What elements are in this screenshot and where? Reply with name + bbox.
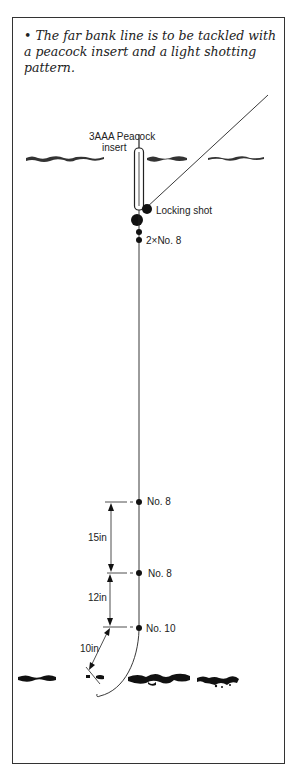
spacing-12in-label: 12in xyxy=(88,592,107,603)
hook-icon xyxy=(97,694,100,697)
dropper-shot-icon xyxy=(136,570,142,576)
locking-shot-icon xyxy=(131,214,143,226)
dimension-15in xyxy=(108,503,114,572)
tell-tale-label: No. 10 xyxy=(146,623,176,634)
main-line-to-rod xyxy=(146,95,268,208)
float-label-line1: 3AAA Peacock xyxy=(89,131,156,142)
peacock-insert-float xyxy=(135,134,144,210)
spacing-15in-label: 15in xyxy=(88,532,107,543)
water-surface xyxy=(26,156,264,162)
no8-shot-icon xyxy=(136,237,142,243)
locking-shot-icon xyxy=(142,204,152,214)
dimension-12in xyxy=(107,574,113,626)
bulk-shot-label: 2×No. 8 xyxy=(146,235,182,246)
hooklength-line xyxy=(100,630,139,696)
no8-shot-icon xyxy=(136,229,142,235)
locking-shot-label: Locking shot xyxy=(156,205,212,216)
dropper-1-label: No. 8 xyxy=(147,496,171,507)
float-rig-diagram: 3AAA Peacock insert Locking shot 2×No. 8… xyxy=(0,0,304,778)
dropper-2-label: No. 8 xyxy=(148,568,172,579)
float-label-line2: insert xyxy=(102,142,127,153)
hooklength-10in-label: 10in xyxy=(80,643,99,654)
dropper-shot-icon xyxy=(136,499,142,505)
riverbed xyxy=(18,674,239,688)
